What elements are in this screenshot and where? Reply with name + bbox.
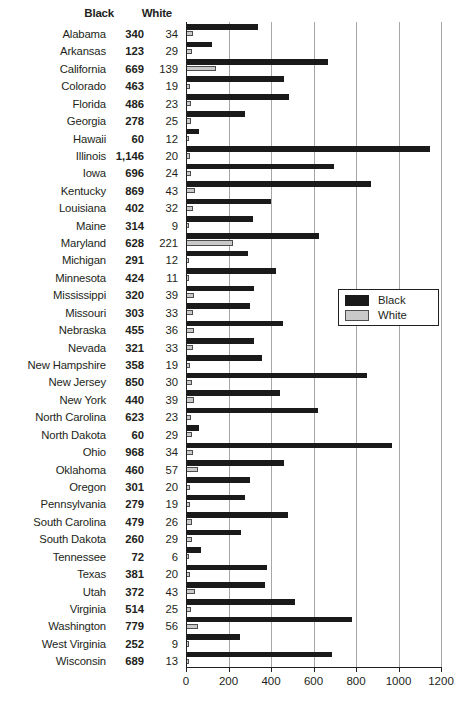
row-value-white: 36 — [144, 322, 178, 339]
row-value-white: 221 — [144, 235, 178, 252]
bar-group — [186, 353, 441, 370]
table-row: Louisiana40232 — [0, 200, 186, 217]
table-row: Iowa69624 — [0, 165, 186, 182]
row-value-black: 123 — [104, 43, 144, 60]
table-row: Tennessee726 — [0, 549, 186, 566]
row-state-label: Georgia — [0, 113, 106, 130]
row-state-label: North Carolina — [0, 409, 106, 426]
bar-black — [186, 477, 250, 483]
x-axis-tick — [356, 667, 357, 672]
table-row: Georgia27825 — [0, 113, 186, 130]
bar-white — [186, 624, 198, 629]
row-state-label: New Jersey — [0, 374, 106, 391]
row-state-label: Wisconsin — [0, 653, 106, 670]
row-value-black: 479 — [104, 514, 144, 531]
table-row: Mississippi32039 — [0, 287, 186, 304]
row-value-black: 424 — [104, 270, 144, 287]
row-state-label: Tennessee — [0, 549, 106, 566]
black-swatch-icon — [345, 295, 369, 306]
row-value-black: 486 — [104, 96, 144, 113]
row-state-label: Hawaii — [0, 131, 106, 148]
row-value-white: 20 — [144, 479, 178, 496]
bar-black — [186, 24, 258, 30]
row-value-white: 26 — [144, 514, 178, 531]
row-value-white: 25 — [144, 113, 178, 130]
table-row: Maryland628221 — [0, 235, 186, 252]
table-row: South Carolina47926 — [0, 514, 186, 531]
row-value-white: 24 — [144, 165, 178, 182]
row-state-label: South Carolina — [0, 514, 106, 531]
row-value-white: 139 — [144, 61, 178, 78]
row-value-black: 279 — [104, 496, 144, 513]
row-value-black: 291 — [104, 252, 144, 269]
row-value-white: 39 — [144, 287, 178, 304]
x-axis-tick-label: 1200 — [418, 675, 458, 687]
column-header-white: White — [114, 7, 172, 19]
row-state-label: Alabama — [0, 26, 106, 43]
row-value-white: 43 — [144, 584, 178, 601]
row-value-black: 463 — [104, 78, 144, 95]
plot-area: 020040060080010001200 — [186, 22, 441, 667]
row-state-label: New Hampshire — [0, 357, 106, 374]
bar-group — [186, 92, 441, 109]
row-value-white: 19 — [144, 496, 178, 513]
table-row: Michigan29112 — [0, 252, 186, 269]
row-value-black: 301 — [104, 479, 144, 496]
row-value-white: 9 — [144, 636, 178, 653]
row-value-black: 321 — [104, 340, 144, 357]
bar-black — [186, 443, 392, 449]
table-row: Texas38120 — [0, 566, 186, 583]
row-value-white: 19 — [144, 357, 178, 374]
row-state-label: Utah — [0, 584, 106, 601]
bar-group — [186, 266, 441, 283]
bar-black — [186, 373, 367, 379]
row-state-label: Michigan — [0, 252, 106, 269]
table-row: New Hampshire35819 — [0, 357, 186, 374]
row-value-black: 72 — [104, 549, 144, 566]
row-value-black: 320 — [104, 287, 144, 304]
row-value-black: 1,146 — [104, 148, 144, 165]
row-value-white: 43 — [144, 183, 178, 200]
row-value-black: 314 — [104, 218, 144, 235]
row-value-black: 358 — [104, 357, 144, 374]
bar-group — [186, 109, 441, 126]
bar-black — [186, 129, 199, 135]
row-value-white: 32 — [144, 200, 178, 217]
bar-group — [186, 562, 441, 579]
bar-black — [186, 94, 289, 100]
table-row: Arkansas12329 — [0, 43, 186, 60]
bar-group — [186, 336, 441, 353]
bar-group — [186, 127, 441, 144]
bar-group — [186, 179, 441, 196]
row-value-black: 440 — [104, 392, 144, 409]
row-value-white: 25 — [144, 601, 178, 618]
row-state-label: Washington — [0, 618, 106, 635]
table-row: Colorado46319 — [0, 78, 186, 95]
row-value-black: 381 — [104, 566, 144, 583]
bar-black — [186, 425, 199, 431]
bar-group — [186, 528, 441, 545]
x-axis-tick — [399, 667, 400, 672]
row-value-black: 669 — [104, 61, 144, 78]
table-row: Missouri30333 — [0, 305, 186, 322]
bar-chart: Black White Alabama34034Arkansas12329Cal… — [0, 0, 458, 707]
table-row: Maine3149 — [0, 218, 186, 235]
bar-group — [186, 39, 441, 56]
row-state-label: New York — [0, 392, 106, 409]
bar-group — [186, 249, 441, 266]
row-value-black: 779 — [104, 618, 144, 635]
legend-item-black: Black — [345, 294, 435, 308]
white-swatch-icon — [345, 310, 369, 321]
row-value-white: 33 — [144, 305, 178, 322]
row-value-white: 20 — [144, 566, 178, 583]
row-value-black: 278 — [104, 113, 144, 130]
legend-label-white: White — [378, 309, 407, 322]
table-row: Kentucky86943 — [0, 183, 186, 200]
bar-group — [186, 231, 441, 248]
bar-black — [186, 303, 250, 309]
row-value-white: 23 — [144, 96, 178, 113]
bar-group — [186, 423, 441, 440]
bar-white — [186, 467, 198, 472]
row-state-label: Ohio — [0, 444, 106, 461]
bar-group — [186, 144, 441, 161]
